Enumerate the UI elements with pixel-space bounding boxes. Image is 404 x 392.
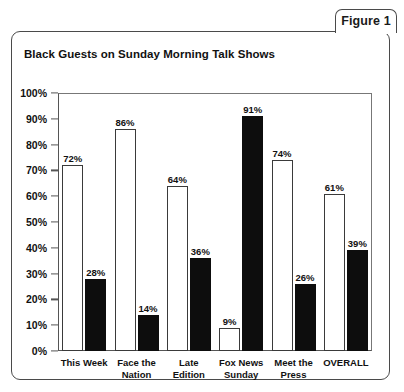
bar-white-bar[interactable]: 72%	[62, 165, 83, 351]
y-axis-tick-mark	[51, 350, 58, 351]
y-axis-tick-label: 90%	[26, 113, 47, 125]
bar-value-label: 64%	[168, 174, 187, 185]
bar-white-bar[interactable]: 64%	[167, 186, 188, 351]
bar-group: 74%26%	[272, 93, 316, 351]
chart-plot-area: 100%90%80%70%60%50%40%30%20%10%0% 72%28%…	[58, 93, 372, 351]
y-axis-tick-mark	[51, 325, 58, 326]
bar-black-bar[interactable]: 91%	[242, 116, 263, 351]
x-axis-category-label: Late Edition	[163, 357, 215, 380]
y-axis-tick-label: 70%	[26, 164, 47, 176]
bar-white-bar[interactable]: 9%	[219, 328, 240, 351]
bar-value-label: 61%	[325, 182, 344, 193]
figure-tab-mask	[337, 29, 395, 34]
bar-white-bar[interactable]: 61%	[324, 194, 345, 351]
x-axis-category-label: This Week	[58, 357, 110, 369]
bar-value-label: 39%	[348, 238, 367, 249]
bar-value-label: 9%	[223, 316, 237, 327]
y-axis-tick-label: 50%	[26, 216, 47, 228]
y-axis-tick-mark	[51, 273, 58, 274]
bar-value-label: 14%	[138, 303, 157, 314]
y-axis-tick-mark	[51, 144, 58, 145]
bar-value-label: 28%	[86, 267, 105, 278]
bar-white-bar[interactable]: 74%	[272, 160, 293, 351]
figure-container: Figure 1 Black Guests on Sunday Morning …	[0, 0, 404, 392]
bar-value-label: 72%	[63, 153, 82, 164]
bar-value-label: 86%	[115, 117, 134, 128]
y-axis-tick-label: 40%	[26, 242, 47, 254]
y-axis-tick-label: 0%	[32, 345, 47, 357]
x-axis-category-label: Meet the Press	[267, 357, 319, 380]
y-axis-tick-label: 100%	[20, 87, 47, 99]
x-axis-category-label: Face the Nation	[110, 357, 162, 380]
bar-group: 61%39%	[324, 93, 368, 351]
bar-black-bar[interactable]: 36%	[190, 258, 211, 351]
bar-group: 9%91%	[219, 93, 263, 351]
bar-group: 86%14%	[115, 93, 159, 351]
y-axis-tick-mark	[51, 170, 58, 171]
bar-black-bar[interactable]: 26%	[295, 284, 316, 351]
y-axis-tick-label: 30%	[26, 268, 47, 280]
x-axis-category-label: Fox News Sunday	[215, 357, 267, 380]
y-axis-tick-label: 20%	[26, 293, 47, 305]
y-axis-tick-mark	[51, 92, 58, 93]
y-axis-tick-mark	[51, 247, 58, 248]
y-axis-tick-mark	[51, 299, 58, 300]
bar-black-bar[interactable]: 39%	[347, 250, 368, 351]
bar-black-bar[interactable]: 14%	[138, 315, 159, 351]
bar-value-label: 74%	[272, 148, 291, 159]
y-axis-tick-label: 10%	[26, 319, 47, 331]
bar-group: 64%36%	[167, 93, 211, 351]
bar-black-bar[interactable]: 28%	[85, 279, 106, 351]
y-axis-tick-mark	[51, 196, 58, 197]
bar-value-label: 91%	[243, 104, 262, 115]
x-axis-category-label: OVERALL	[320, 357, 372, 369]
bar-value-label: 26%	[295, 272, 314, 283]
chart-title: Black Guests on Sunday Morning Talk Show…	[24, 48, 275, 60]
bar-group: 72%28%	[62, 93, 106, 351]
figure-tab-label: Figure 1	[341, 15, 390, 29]
y-axis-tick-mark	[51, 221, 58, 222]
bar-value-label: 36%	[191, 246, 210, 257]
bar-white-bar[interactable]: 86%	[115, 129, 136, 351]
y-axis-tick-label: 80%	[26, 139, 47, 151]
y-axis-tick-label: 60%	[26, 190, 47, 202]
y-axis-tick-mark	[51, 118, 58, 119]
